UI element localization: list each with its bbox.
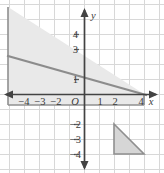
- y-tick-label-1: 1: [73, 74, 78, 85]
- x-tick-label-2: 2: [112, 96, 117, 107]
- x-axis-label: x: [148, 96, 154, 107]
- y-axis-label: y: [90, 10, 96, 21]
- x-tick-label-neg3: −3: [34, 96, 45, 107]
- coordinate-plane-figure: y x O −4 −3 −2 1 2 4 4 3 1 −2 −3 −4: [0, 0, 164, 173]
- y-axis-up-arrow: [81, 8, 89, 17]
- y-tick-label-3: 3: [73, 44, 78, 55]
- y-tick-label-neg2: −2: [70, 119, 81, 130]
- y-tick-label-4: 4: [73, 29, 79, 40]
- origin-label: O: [71, 96, 79, 107]
- main-shaded-region: [8, 7, 144, 105]
- y-tick-label-neg3: −3: [70, 134, 81, 145]
- x-tick-label-1: 1: [97, 96, 102, 107]
- graph-canvas: y x O −4 −3 −2 1 2 4 4 3 1 −2 −3 −4: [0, 0, 164, 173]
- x-tick-label-neg2: −2: [50, 96, 61, 107]
- y-tick-label-neg4: −4: [70, 149, 82, 160]
- x-tick-label-4: 4: [138, 96, 144, 107]
- x-tick-label-neg4: −4: [18, 96, 30, 107]
- y-axis-down-arrow: [81, 161, 89, 170]
